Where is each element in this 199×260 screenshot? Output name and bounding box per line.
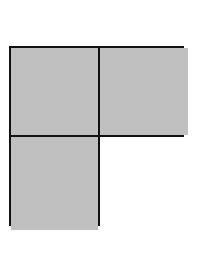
cell-bottom-right-unshaded [100,137,188,230]
fraction-grid [9,46,184,226]
cell-top-right-shaded [100,48,188,135]
cell-bottom-left-shaded [11,137,98,230]
cell-top-left-shaded [11,48,98,135]
